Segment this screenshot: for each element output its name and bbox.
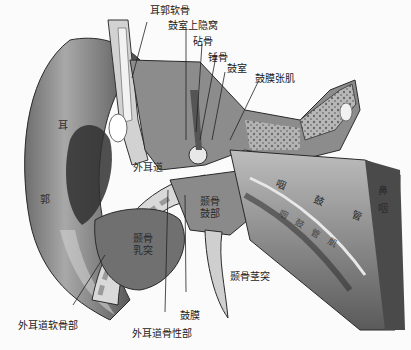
ear-anatomy-figure: 耳郭软骨 鼓室上隐窝 砧骨 锤骨 鼓室 鼓膜张肌 耳 郭 外耳道 颞骨鼓部 颞骨… <box>0 0 411 350</box>
label-auricle-1: 耳 <box>58 120 68 132</box>
label-auricle-cartilage: 耳郭软骨 <box>150 5 190 17</box>
label-tympanic-membrane: 鼓膜 <box>180 310 200 322</box>
label-mastoid: 颞骨乳突 <box>133 233 155 257</box>
label-bony-canal: 外耳道骨性部 <box>132 328 192 340</box>
label-cartilaginous-canal: 外耳道软骨部 <box>18 320 78 332</box>
label-styloid-process: 颞骨茎突 <box>230 271 270 283</box>
label-incus: 砧骨 <box>193 36 213 48</box>
label-epitympanic-recess: 鼓室上隐窝 <box>168 20 218 32</box>
label-tensor-tympani: 鼓膜张肌 <box>255 73 295 85</box>
label-tympanic-part: 颞骨鼓部 <box>200 196 224 220</box>
label-external-canal: 外耳道 <box>133 162 163 174</box>
label-malleus: 锤骨 <box>208 52 228 64</box>
ear-illustration <box>0 0 411 350</box>
label-tympanic-cavity: 鼓室 <box>227 63 247 75</box>
label-auricle-2: 郭 <box>40 194 50 206</box>
label-nasopharynx: 鼻咽 <box>375 185 387 265</box>
